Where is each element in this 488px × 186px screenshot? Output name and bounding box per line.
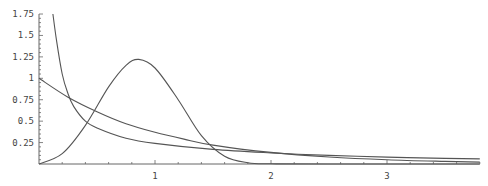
chart: 1230.250.50.7511.251.51.75	[0, 0, 488, 186]
axes	[39, 14, 480, 164]
y-tick-label: 1.25	[12, 52, 34, 62]
x-tick-label: 2	[268, 171, 273, 181]
curve-exponential-decay	[39, 78, 480, 162]
plot-curves	[39, 14, 480, 164]
y-tick-label: 0.75	[12, 95, 34, 105]
y-tick-label: 0.25	[12, 138, 34, 148]
y-tick-label: 1	[29, 73, 34, 83]
curve-inverse-sqrt-decay	[53, 14, 480, 159]
y-tick-label: 1.75	[12, 9, 34, 19]
x-tick-label: 3	[384, 171, 389, 181]
curve-unimodal-bump	[39, 59, 480, 164]
y-tick-label: 1.5	[18, 30, 34, 40]
y-tick-label: 0.5	[18, 116, 34, 126]
x-tick-label: 1	[152, 171, 157, 181]
